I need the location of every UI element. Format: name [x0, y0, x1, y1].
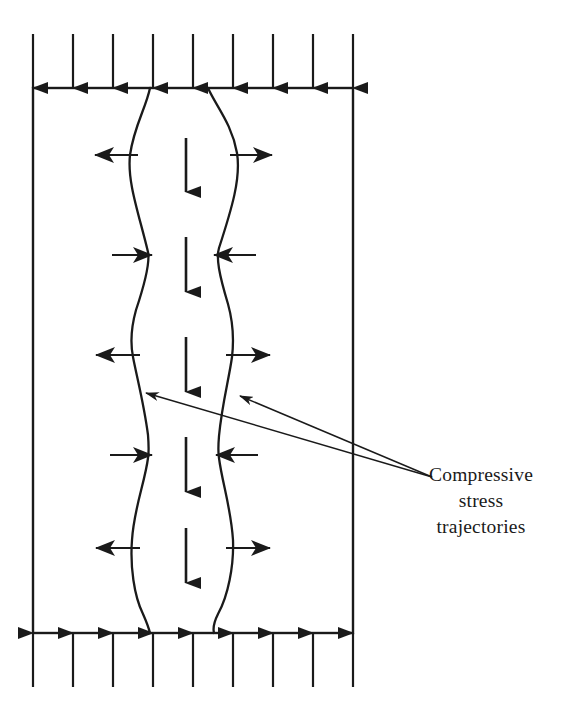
annotation-label-compressive-stress-trajectories: Compressive stress trajectories — [402, 462, 560, 540]
top-compressive-load-arrows — [33, 34, 353, 88]
lateral-stress-arrows — [95, 155, 272, 548]
stress-trajectory-curves — [130, 88, 238, 633]
bottom-reaction-load-arrows — [33, 633, 353, 687]
annotation-leader-lines — [146, 393, 432, 477]
right-stress-trajectory — [208, 88, 238, 633]
left-stress-trajectory — [130, 88, 150, 633]
leader-line-left — [146, 393, 432, 477]
specimen-rectangle — [33, 88, 353, 633]
figure-canvas — [0, 0, 562, 707]
stress-trajectory-figure: Compressive stress trajectories — [0, 0, 562, 707]
specimen-outline — [33, 88, 353, 633]
